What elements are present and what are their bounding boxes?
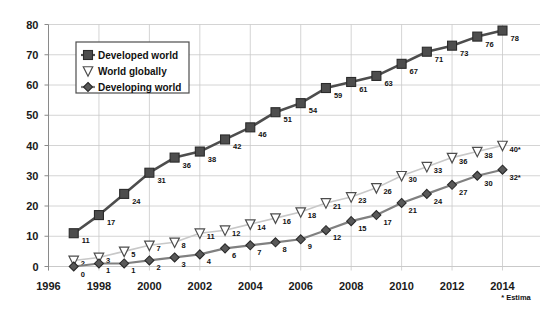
data-point-label: 17 xyxy=(383,218,391,227)
data-point-label: 24 xyxy=(132,197,141,206)
data-point-label: 0 xyxy=(81,270,85,279)
data-point-label: 15 xyxy=(358,224,366,233)
y-axis-tick-label: 80 xyxy=(26,19,38,31)
y-axis-tick-label: 40 xyxy=(26,140,38,152)
y-axis-tick-label: 10 xyxy=(26,230,38,242)
line-chart: 0102030405060708019961998200020022004200… xyxy=(0,0,550,309)
data-point-label: 23 xyxy=(358,196,366,205)
data-point-marker-diamond xyxy=(145,256,154,265)
x-axis-tick-label: 2014 xyxy=(490,280,515,292)
data-point-label: 5 xyxy=(131,250,135,259)
data-point-marker-square xyxy=(84,51,93,60)
data-point-marker-square xyxy=(321,84,330,93)
data-point-label: 59 xyxy=(334,91,342,100)
data-point-label: 40* xyxy=(510,145,521,154)
data-point-label: 27 xyxy=(459,188,467,197)
x-axis-tick-label: 1998 xyxy=(87,280,111,292)
chart-container: 0102030405060708019961998200020022004200… xyxy=(0,0,550,309)
data-point-marker-triangle xyxy=(397,171,407,181)
data-point-label: 7 xyxy=(156,244,160,253)
data-point-marker-square xyxy=(94,211,103,220)
data-point-label: 78 xyxy=(511,34,519,43)
data-point-marker-square xyxy=(195,147,204,156)
data-point-label: 12 xyxy=(232,229,240,238)
data-point-label: 46 xyxy=(258,130,266,139)
data-point-marker-diamond xyxy=(422,189,431,198)
data-point-marker-diamond xyxy=(347,217,356,226)
data-point-marker-square xyxy=(145,168,154,177)
data-point-marker-diamond xyxy=(498,165,507,174)
data-point-label: 42 xyxy=(233,142,241,151)
legend: Developed worldWorld globallyDeveloping … xyxy=(76,42,189,93)
data-point-label: 26 xyxy=(383,187,391,196)
data-point-label: 71 xyxy=(435,55,443,64)
data-point-label: 18 xyxy=(308,211,316,220)
data-point-label: 11 xyxy=(207,232,215,241)
data-point-label: 21 xyxy=(409,206,417,215)
y-axis-tick-label: 0 xyxy=(32,261,38,273)
data-point-label: 11 xyxy=(82,236,90,245)
data-point-label: 4 xyxy=(207,257,212,266)
data-point-marker-diamond xyxy=(271,238,280,247)
data-point-label: 30 xyxy=(484,179,492,188)
data-point-label: 63 xyxy=(384,79,392,88)
x-axis-ticks: 1996199820002002200420062008201020122014 xyxy=(36,280,515,292)
x-axis-tick-label: 2000 xyxy=(137,280,161,292)
data-point-label: 54 xyxy=(309,106,318,115)
x-axis-tick-label: 1996 xyxy=(36,280,60,292)
data-point-marker-diamond xyxy=(246,241,255,250)
data-point-marker-diamond xyxy=(473,171,482,180)
x-axis-tick-label: 2012 xyxy=(440,280,464,292)
data-point-label: 38 xyxy=(484,151,492,160)
y-axis-tick-label: 70 xyxy=(26,49,38,61)
data-point-label: 8 xyxy=(182,241,186,250)
x-axis-tick-label: 2002 xyxy=(188,280,212,292)
data-point-marker-diamond xyxy=(221,244,230,253)
data-point-label: 36 xyxy=(459,157,467,166)
data-point-marker-diamond xyxy=(195,250,204,259)
estimate-footnote: * Estima xyxy=(501,293,531,302)
data-point-label: 33 xyxy=(434,166,442,175)
data-point-marker-diamond xyxy=(321,226,330,235)
data-point-marker-diamond xyxy=(372,211,381,220)
data-point-marker-square xyxy=(422,47,431,56)
x-axis-tick-label: 2004 xyxy=(238,280,263,292)
data-point-label: 1 xyxy=(131,266,135,275)
data-point-marker-square xyxy=(296,99,305,108)
legend-item-label: Developed world xyxy=(98,50,178,61)
data-point-label: 9 xyxy=(308,242,312,251)
data-point-marker-diamond xyxy=(170,253,179,262)
x-axis-tick-label: 2006 xyxy=(288,280,312,292)
data-point-label: 2 xyxy=(156,263,160,272)
data-point-label: 38 xyxy=(208,155,216,164)
y-axis-tick-label: 60 xyxy=(26,79,38,91)
data-point-label: 24 xyxy=(434,197,443,206)
data-point-label: 76 xyxy=(485,40,493,49)
data-point-marker-square xyxy=(397,59,406,68)
data-point-label: 51 xyxy=(284,115,292,124)
data-point-label: 36 xyxy=(183,161,191,170)
data-point-label: 12 xyxy=(333,233,341,242)
data-point-label: 67 xyxy=(410,67,418,76)
y-axis-tick-label: 20 xyxy=(26,200,38,212)
data-point-marker-square xyxy=(170,153,179,162)
data-point-label: 7 xyxy=(257,248,261,257)
data-point-label: 73 xyxy=(460,49,468,58)
data-point-marker-square xyxy=(372,71,381,80)
legend-item-label: Developing world xyxy=(98,82,181,93)
data-point-marker-square xyxy=(69,229,78,238)
data-point-label: 31 xyxy=(157,176,165,185)
data-point-label: 32* xyxy=(510,173,521,182)
data-point-label: 1 xyxy=(106,266,110,275)
data-point-marker-square xyxy=(448,41,457,50)
y-axis-tick-label: 50 xyxy=(26,109,38,121)
data-point-label: 16 xyxy=(283,217,291,226)
data-point-label: 61 xyxy=(359,85,367,94)
data-point-marker-square xyxy=(271,108,280,117)
data-point-label: 6 xyxy=(232,251,236,260)
y-axis-ticks: 01020304050607080 xyxy=(26,19,48,273)
data-point-marker-diamond xyxy=(69,262,78,271)
legend-item-label: World globally xyxy=(98,66,167,77)
data-point-label: 8 xyxy=(283,245,287,254)
data-point-marker-square xyxy=(347,77,356,86)
